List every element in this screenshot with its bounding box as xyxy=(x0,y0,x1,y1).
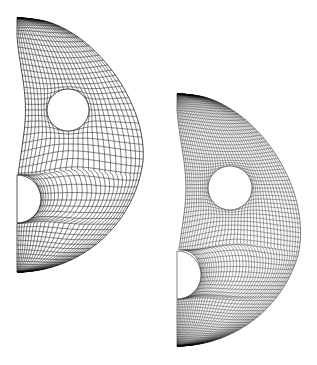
mesh-diagram xyxy=(0,0,317,365)
circular-hole-boundary xyxy=(208,166,252,210)
figure-background xyxy=(0,0,317,365)
circular-hole-boundary xyxy=(47,89,89,131)
figure-root xyxy=(0,0,317,365)
